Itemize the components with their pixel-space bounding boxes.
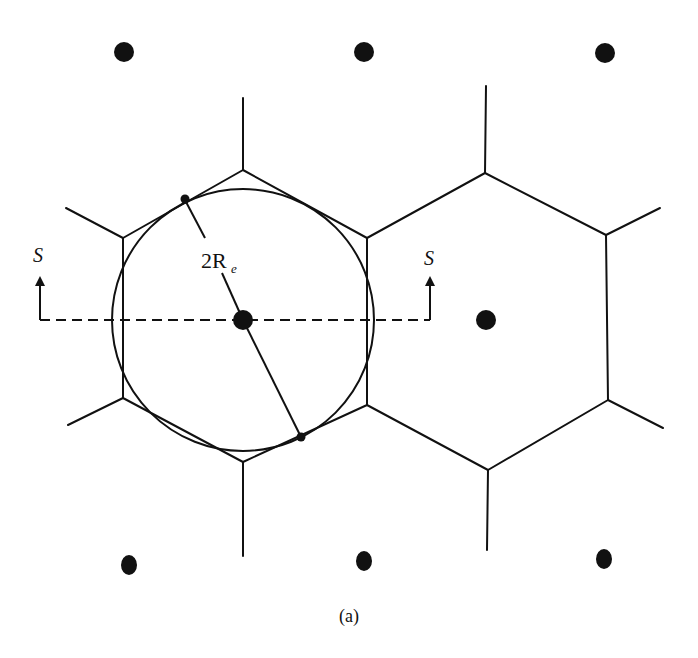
section-arrow-right-icon: [425, 276, 435, 286]
hexagonal-lattice-diagram: S S 2R e (a): [0, 0, 698, 658]
section-label-left: S: [33, 244, 43, 266]
section-arrow-left-icon: [35, 276, 45, 286]
section-label-right: S: [424, 247, 434, 269]
radius-endpoint-top: [181, 195, 190, 204]
figure-caption: (a): [339, 606, 359, 627]
radius-endpoint-bottom: [297, 433, 306, 442]
radius-label-subscript: e: [231, 261, 237, 276]
lattice-points: [114, 42, 615, 575]
radius-label: 2R: [201, 248, 227, 273]
